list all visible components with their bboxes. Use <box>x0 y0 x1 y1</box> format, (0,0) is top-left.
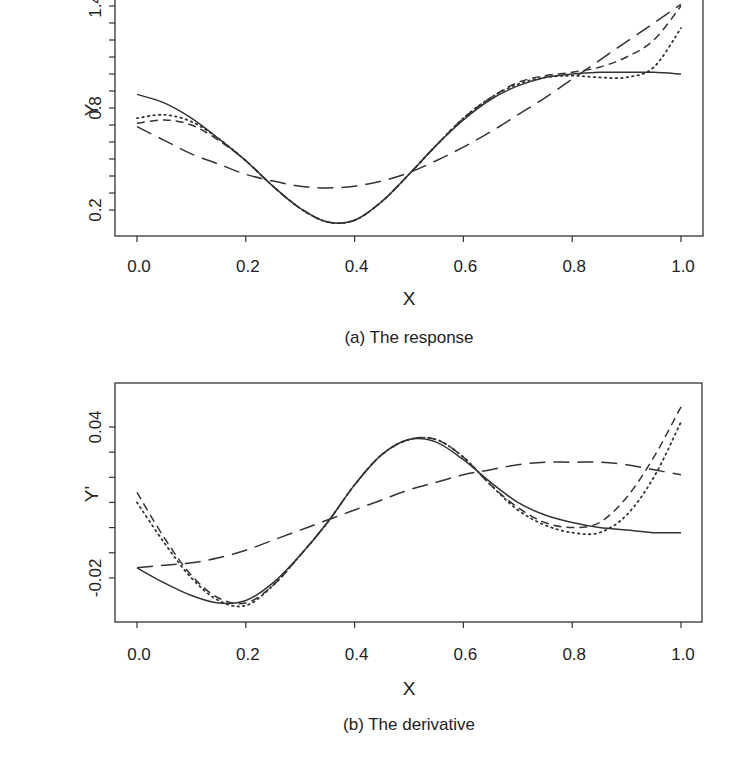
series-long-dash <box>137 4 681 188</box>
x-tick-label: 0.2 <box>236 257 260 276</box>
y-tick-label: 0.04 <box>86 410 105 443</box>
series-dotted <box>137 422 681 607</box>
panel-a-response: 0.20.81.4 0.00.20.40.60.81.0 X Y (a) The… <box>81 0 703 347</box>
x-axis-label-b: X <box>403 678 416 699</box>
series-solid <box>137 439 681 604</box>
caption-a: (a) The response <box>344 328 473 347</box>
caption-b: (b) The derivative <box>343 715 475 734</box>
series-group-a <box>137 4 681 223</box>
y-tick-label: 0.2 <box>86 198 105 222</box>
x-tick-label: 1.0 <box>671 645 695 664</box>
y-axis-b: -0.020.04 <box>86 410 115 597</box>
figure: 0.20.81.4 0.00.20.40.60.81.0 X Y (a) The… <box>0 0 732 770</box>
series-dotted <box>137 28 681 223</box>
y-axis-label-b: Y' <box>81 486 102 502</box>
x-axis-b: 0.00.20.40.60.81.0 <box>127 622 695 664</box>
x-tick-label: 0.8 <box>562 645 586 664</box>
plot-frame-a <box>115 0 703 236</box>
x-tick-label: 0.4 <box>345 645 369 664</box>
x-axis-label-a: X <box>403 288 416 309</box>
x-tick-label: 0.4 <box>345 257 369 276</box>
series-solid <box>137 72 681 223</box>
x-tick-label: 0.8 <box>562 257 586 276</box>
series-long-dash <box>137 462 681 568</box>
x-tick-label: 0.0 <box>127 257 151 276</box>
panel-b-derivative: -0.020.04 0.00.20.40.60.81.0 X Y' (b) Th… <box>81 383 702 734</box>
y-axis-label-a: Y <box>81 103 102 116</box>
x-tick-label: 0.6 <box>454 645 478 664</box>
plot-frame-b <box>115 383 702 622</box>
series-short-dash <box>137 407 681 604</box>
x-tick-label: 0.6 <box>454 257 478 276</box>
y-tick-label: 1.4 <box>86 0 105 18</box>
x-tick-label: 0.2 <box>236 645 260 664</box>
x-tick-label: 0.0 <box>127 645 151 664</box>
x-tick-label: 1.0 <box>671 257 695 276</box>
series-group-b <box>137 407 681 607</box>
y-tick-label: -0.02 <box>86 559 105 598</box>
series-short-dash <box>137 6 681 223</box>
x-axis-a: 0.00.20.40.60.81.0 <box>127 236 695 276</box>
